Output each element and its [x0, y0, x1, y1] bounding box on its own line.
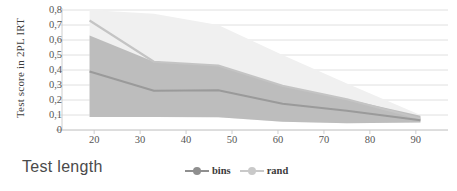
y-tick-label: 0,4 [28, 65, 62, 75]
y-tick-label: 0,3 [28, 80, 62, 90]
legend-item-rand[interactable]: rand [240, 165, 289, 176]
legend-label: bins [212, 165, 231, 176]
legend-label: rand [267, 165, 289, 176]
x-tick-label: 50 [212, 134, 252, 145]
legend-item-bins[interactable]: bins [185, 165, 231, 176]
legend-marker-icon [240, 166, 264, 175]
x-tick-label: 90 [396, 134, 436, 145]
y-tick-label: 0,8 [28, 5, 62, 15]
x-tick-label: 40 [166, 134, 206, 145]
x-tick-label: 30 [120, 134, 160, 145]
x-axis-title: Test length [22, 158, 103, 176]
y-tick-label: 0,6 [28, 35, 62, 45]
x-tick-label: 20 [74, 134, 114, 145]
y-tick-label: 0 [28, 125, 62, 135]
y-tick-label: 0,7 [28, 20, 62, 30]
chart-container: Test score in 2PL IRT 00,10,20,30,40,50,… [0, 0, 457, 191]
legend-marker-icon [185, 166, 209, 175]
y-tick-label: 0,2 [28, 95, 62, 105]
x-tick-label: 60 [258, 134, 298, 145]
y-tick-label: 0,5 [28, 50, 62, 60]
y-tick-label: 0,1 [28, 110, 62, 120]
x-tick-label: 80 [350, 134, 390, 145]
chart-legend: binsrand [185, 165, 288, 176]
x-tick-label: 70 [304, 134, 344, 145]
